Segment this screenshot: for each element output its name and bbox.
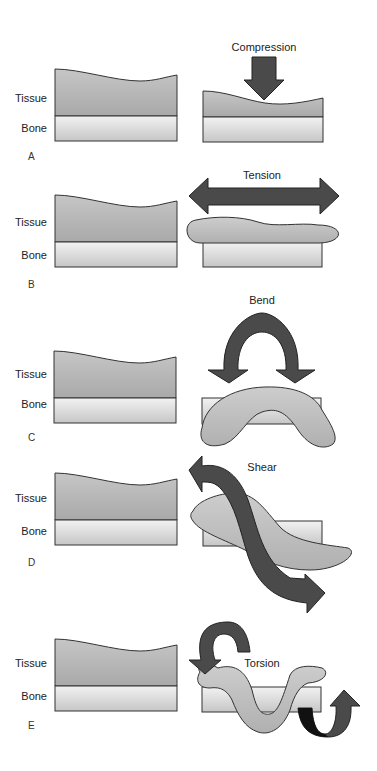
bone-block bbox=[203, 242, 322, 267]
panel-letter-d: D bbox=[28, 557, 35, 568]
tissue-label: Tissue bbox=[15, 368, 47, 380]
normal-tissue-block bbox=[55, 473, 177, 545]
panel-c: Tissue Bone Bend C bbox=[15, 294, 335, 447]
mechanical-forces-diagram: Tissue Bone Compression A Tissue Bone Te… bbox=[0, 0, 377, 771]
bone-label: Bone bbox=[21, 398, 47, 410]
force-label-shear: Shear bbox=[247, 461, 277, 473]
bone-label: Bone bbox=[21, 122, 47, 134]
torsion-arrow-top-icon bbox=[189, 622, 250, 674]
bone-label: Bone bbox=[21, 690, 47, 702]
panel-e: Tissue Bone Torsion E bbox=[15, 622, 360, 737]
force-label-torsion: Torsion bbox=[244, 657, 279, 669]
panel-letter-a: A bbox=[28, 151, 35, 162]
normal-tissue-block bbox=[54, 351, 176, 423]
force-label-compression: Compression bbox=[232, 41, 297, 53]
tension-arrow-icon bbox=[189, 178, 339, 214]
bone-label: Bone bbox=[21, 249, 47, 261]
compression-arrow-icon bbox=[244, 57, 284, 100]
panel-a: Tissue Bone Compression A bbox=[15, 41, 323, 162]
tissue-label: Tissue bbox=[15, 657, 47, 669]
normal-tissue-block bbox=[55, 69, 177, 141]
bone-block bbox=[203, 117, 323, 142]
tissue-label: Tissue bbox=[15, 92, 47, 104]
normal-tissue-block bbox=[55, 195, 177, 267]
panel-letter-b: B bbox=[28, 279, 35, 290]
bend-arrow-icon bbox=[208, 313, 315, 383]
force-label-bend: Bend bbox=[249, 294, 275, 306]
panel-letter-c: C bbox=[28, 432, 35, 443]
bone-label: Bone bbox=[21, 525, 47, 537]
stretched-tissue bbox=[187, 217, 339, 243]
panel-letter-e: E bbox=[28, 720, 35, 731]
force-label-tension: Tension bbox=[243, 169, 281, 181]
tissue-label: Tissue bbox=[15, 492, 47, 504]
panel-b: Tissue Bone Tension B bbox=[15, 169, 339, 290]
panel-d: Tissue Bone Shear D bbox=[15, 456, 352, 613]
tissue-label: Tissue bbox=[15, 216, 47, 228]
sheared-tissue bbox=[191, 493, 352, 570]
normal-tissue-block bbox=[55, 639, 177, 711]
